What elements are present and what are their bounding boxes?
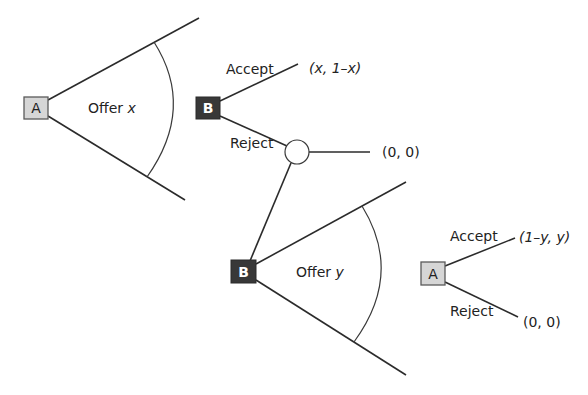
payoff-accept1: (x, 1–x)	[309, 60, 361, 76]
game-tree-diagram: A B B A Offer x Accept Reject (x, 1–x) (…	[0, 0, 588, 395]
game-tree-svg: A B B A Offer x Accept Reject (x, 1–x) (…	[0, 0, 588, 395]
chance-to-b2-edge	[250, 163, 291, 261]
offer-y-label: Offer y	[296, 264, 345, 280]
node-b2: B	[231, 260, 256, 283]
node-b1-label: B	[203, 100, 214, 116]
offer-x-range-arc	[147, 42, 173, 177]
offer-y-range-arc	[354, 206, 381, 342]
node-b1: B	[196, 97, 220, 119]
reject2-label: Reject	[450, 303, 494, 319]
node-root-a: A	[24, 97, 48, 119]
node-a2: A	[421, 262, 445, 285]
payoff-chance: (0, 0)	[382, 144, 420, 160]
node-root-a-label: A	[31, 100, 41, 116]
chance-node	[285, 140, 309, 164]
node-a2-label: A	[428, 266, 438, 282]
offer-x-label: Offer x	[88, 100, 137, 116]
accept2-label: Accept	[450, 228, 498, 244]
offer-y-lower-edge	[256, 280, 406, 375]
reject1-label: Reject	[230, 135, 274, 151]
payoff-reject2: (0, 0)	[523, 314, 561, 330]
accept1-label: Accept	[226, 61, 274, 77]
offer-x-upper-edge	[48, 18, 199, 100]
node-b2-label: B	[238, 264, 249, 280]
offer-x-lower-edge	[48, 116, 185, 200]
payoff-accept2: (1–y, y)	[519, 229, 570, 245]
